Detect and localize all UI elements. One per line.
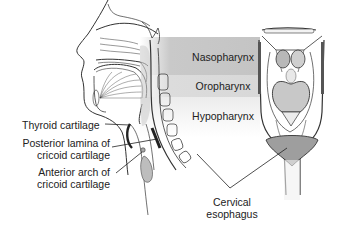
pharynx-lumen-shade [140,46,150,126]
esophagus-tube [284,160,300,200]
thyroid-gland-shape [141,156,153,182]
label-nasopharynx: Nasopharynx [186,51,260,63]
pharynx-anatomy-diagram: Nasopharynx Oropharynx Hypopharynx Thyro… [0,0,348,231]
label-cervical-esophagus-line2: esophagus [200,208,264,220]
label-cervical-esophagus-line1: Cervical [200,196,264,208]
label-anterior-arch-line2: cricoid cartilage [10,178,110,190]
label-posterior-lamina-line2: cricoid cartilage [10,149,110,161]
right-choana [291,50,305,68]
anatomy-illustration [0,0,348,231]
uvula [286,69,296,83]
label-posterior-lamina-line1: Posterior lamina of [10,137,110,149]
tongue-base-view [272,81,309,112]
leader-lines [105,124,287,188]
label-anterior-arch-line1: Anterior arch of [10,166,110,178]
label-thyroid-cartilage: Thyroid cartilage [22,119,100,131]
laryngeal-inlet [282,112,300,126]
label-oropharynx: Oropharynx [186,80,260,92]
left-choana [276,50,290,68]
anterior-arch-shape [141,148,145,152]
label-hypopharynx: Hypopharynx [186,110,260,122]
